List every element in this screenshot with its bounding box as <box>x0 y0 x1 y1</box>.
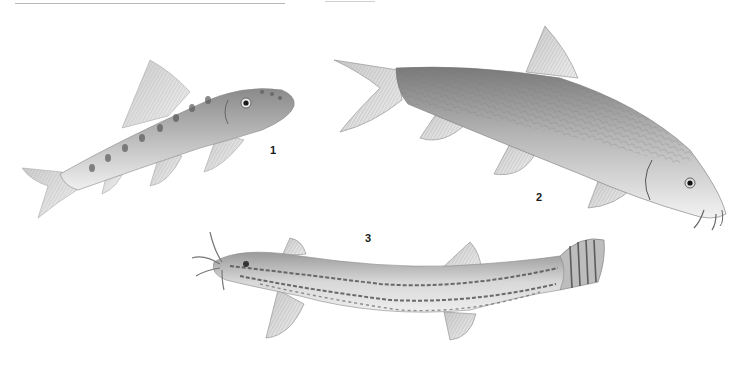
figure-label-2: 2 <box>536 191 542 203</box>
fish-drawings <box>0 0 749 370</box>
fish-1 <box>22 60 294 218</box>
fish-3 <box>192 232 604 340</box>
figure-label-1: 1 <box>270 144 276 156</box>
fish-illustration-plate: 1 2 3 <box>0 0 749 370</box>
fish-2 <box>334 26 726 230</box>
fish-3-eye <box>243 261 249 267</box>
figure-label-3: 3 <box>365 232 371 244</box>
